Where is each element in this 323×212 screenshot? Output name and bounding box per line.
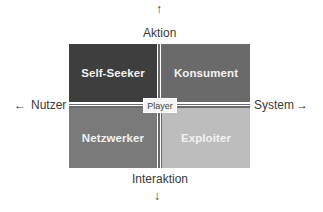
arrow-left-icon: ← [14,99,26,111]
axis-label-top: Aktion [143,26,176,40]
quadrant-netzwerker: Netzwerker [69,108,157,168]
quadrant-label: Netzwerker [82,132,144,144]
arrow-up-icon: ↑ [156,3,162,15]
quadrant-konsument: Konsument [162,44,250,102]
arrow-down-icon: ↓ [154,190,160,202]
axis-label-right: System [254,98,294,112]
axis-label-left: Nutzer [31,98,66,112]
axis-label-bottom: Interaktion [132,172,188,186]
quadrant-label: Self-Seeker [81,67,145,79]
center-label-player: Player [143,98,177,113]
quadrant-label: Exploiter [181,132,231,144]
quadrant-self-seeker: Self-Seeker [69,44,157,102]
quadrant-exploiter: Exploiter [162,108,250,168]
arrow-right-icon: → [296,99,308,111]
quadrant-label: Konsument [174,67,238,79]
